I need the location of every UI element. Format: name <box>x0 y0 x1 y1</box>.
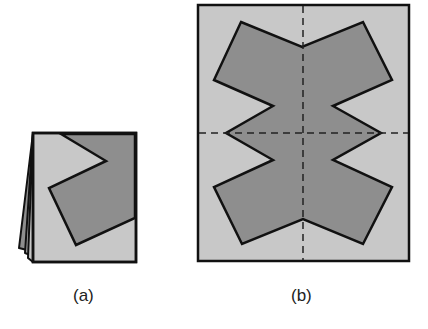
panel-a-folded-paper <box>19 133 136 262</box>
panel-b-unfolded-paper <box>198 5 409 261</box>
caption-a: (a) <box>73 286 94 306</box>
caption-b: (b) <box>291 286 312 306</box>
paper-folding-figure <box>0 0 428 329</box>
